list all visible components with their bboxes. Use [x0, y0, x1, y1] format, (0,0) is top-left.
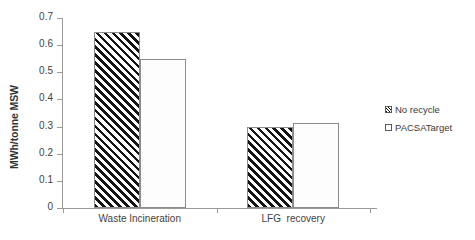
y-axis-tick-label: 0.7	[39, 11, 53, 22]
y-axis-tick: 0.3	[57, 127, 62, 128]
bar	[94, 32, 140, 208]
y-axis-tick: 0.2	[57, 154, 62, 155]
legend-item-no-recycle[interactable]: No recycle	[385, 100, 471, 118]
bar-chart: MWh/tonne MSW 0.70.60.50.40.30.20.10 Was…	[0, 0, 475, 240]
y-axis-title: MWh/tonne MSW	[8, 62, 22, 192]
y-axis-tick-label: 0.6	[39, 38, 53, 49]
x-axis-category-label: LFG recovery	[213, 213, 373, 224]
y-axis-tick-label: 0.2	[39, 147, 53, 158]
y-axis-tick-label: 0.1	[39, 174, 53, 185]
legend-swatch-dots-icon	[385, 124, 392, 131]
y-axis-tick-label: 0.3	[39, 120, 53, 131]
legend-item-pacsatarget[interactable]: PACSATarget	[385, 118, 471, 136]
y-axis-tick: 0.4	[57, 99, 62, 100]
y-axis-tick: 0.5	[57, 72, 62, 73]
y-axis-tick: 0.1	[57, 181, 62, 182]
x-axis-line	[62, 208, 377, 209]
plot-area	[63, 18, 370, 208]
y-axis-tick-label: 0.5	[39, 65, 53, 76]
y-axis-tick: 0.6	[57, 45, 62, 46]
legend-label: No recycle	[395, 104, 440, 115]
y-axis-tick-label: 0.4	[39, 92, 53, 103]
x-axis-category-label: Waste Incineration	[60, 213, 220, 224]
bar	[293, 123, 339, 209]
y-axis-tick: 0	[57, 208, 62, 209]
legend-label: PACSATarget	[395, 122, 452, 133]
bar	[140, 59, 186, 208]
bar	[247, 127, 293, 208]
legend-swatch-hatch-icon	[385, 106, 392, 113]
chart-legend: No recycle PACSATarget	[385, 100, 471, 136]
y-axis-tick-label: 0	[47, 201, 53, 212]
y-axis-tick: 0.7	[57, 18, 62, 19]
